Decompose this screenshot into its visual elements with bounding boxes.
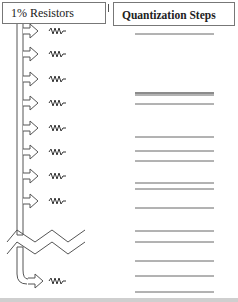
tap-arrow-icon — [23, 169, 38, 183]
tap-arrow-icon — [23, 96, 38, 110]
tap-arrow-icon — [23, 47, 38, 61]
bus-lower — [17, 247, 28, 284]
resistor-icon — [49, 198, 66, 204]
break-line-lower — [7, 242, 85, 254]
resistor-icon — [49, 173, 66, 179]
tap-arrow-icon — [23, 72, 38, 86]
resistor-icon — [49, 28, 66, 34]
tap-arrow-icon — [23, 24, 38, 38]
break-line-upper — [7, 230, 85, 242]
bus-upper — [17, 24, 23, 235]
resistor-icon — [49, 51, 66, 57]
bottom-edge — [0, 298, 238, 302]
tap-arrow-icon — [28, 274, 43, 288]
resistor-icon — [49, 278, 66, 284]
resistor-icon — [49, 149, 66, 155]
tap-arrow-icon — [23, 145, 38, 159]
resistor-ladder-diagram — [0, 0, 238, 302]
tap-arrow-icon — [23, 194, 38, 208]
tap-arrow-icon — [23, 121, 38, 135]
resistor-icon — [49, 125, 66, 131]
resistor-icon — [49, 100, 66, 106]
resistor-icon — [49, 76, 66, 82]
